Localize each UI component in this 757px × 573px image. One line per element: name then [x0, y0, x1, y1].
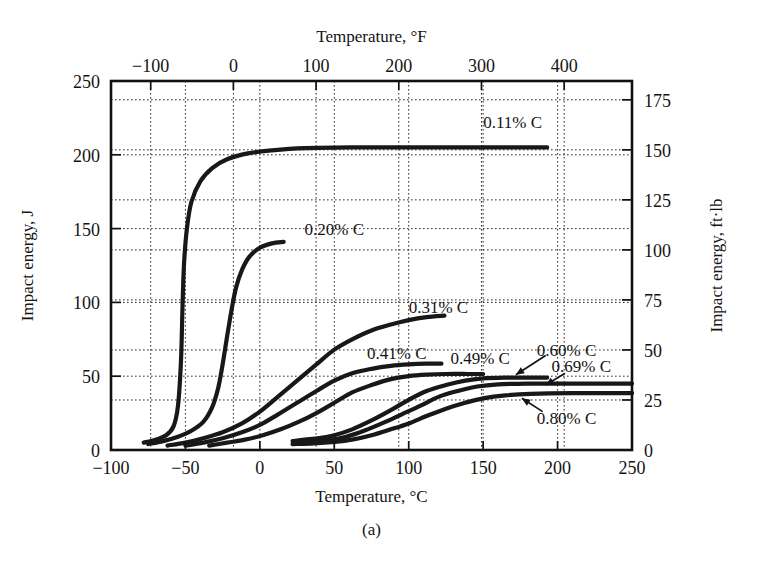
tick-label-x-top: 300	[468, 56, 495, 76]
tick-label-x-bottom: −100	[92, 458, 129, 478]
x-axis-title-celsius: Temperature, °C	[315, 487, 427, 506]
impact-energy-chart: −100−50050100150200250−10001002003004000…	[0, 0, 757, 573]
annotation-arrow-head	[522, 398, 531, 406]
tick-label-y-left: 50	[82, 367, 100, 387]
y-axis-title-joules: Impact energy, J	[18, 209, 37, 321]
curve-020c	[148, 242, 283, 444]
tick-label-x-top: 400	[551, 56, 578, 76]
tick-label-y-right: 50	[644, 341, 662, 361]
curve-label-020c: 0.20% C	[305, 220, 365, 239]
tick-label-y-right: 25	[644, 391, 662, 411]
tick-label-x-bottom: −50	[171, 458, 199, 478]
tick-label-x-top: −100	[132, 56, 169, 76]
curve-label-069c: 0.69% C	[552, 357, 612, 376]
tick-label-y-left: 250	[73, 72, 100, 92]
curves	[144, 147, 632, 445]
annotation-arrow-head	[516, 367, 525, 375]
curve-label-041c: 0.41% C	[367, 344, 427, 363]
tick-label-y-left: 150	[73, 220, 100, 240]
curve-label-031c: 0.31% C	[409, 298, 469, 317]
tick-label-x-bottom: 150	[470, 458, 497, 478]
tick-label-x-top: 200	[385, 56, 412, 76]
tick-label-y-right: 125	[644, 191, 671, 211]
tick-label-y-right: 150	[644, 141, 671, 161]
tick-label-x-bottom: 50	[325, 458, 343, 478]
tick-label-y-right: 100	[644, 241, 671, 261]
curve-label-011c: 0.11% C	[483, 113, 542, 132]
figure-sublabel: (a)	[362, 520, 381, 539]
tick-label-y-right: 175	[644, 91, 671, 111]
tick-label-x-bottom: 200	[544, 458, 571, 478]
curve-label-080c: 0.80% C	[537, 409, 597, 428]
curve-label-049c: 0.49% C	[450, 349, 510, 368]
curve-060c	[293, 378, 548, 442]
tick-label-x-bottom: 0	[255, 458, 264, 478]
tick-label-y-right: 0	[644, 441, 653, 461]
tick-label-x-bottom: 100	[395, 458, 422, 478]
tick-label-x-bottom: 250	[619, 458, 646, 478]
tick-label-y-right: 75	[644, 291, 662, 311]
tick-label-x-top: 100	[303, 56, 330, 76]
tick-label-y-left: 100	[73, 293, 100, 313]
x-axis-title-fahrenheit: Temperature, °F	[316, 27, 426, 46]
tick-label-y-left: 0	[91, 441, 100, 461]
tick-label-x-top: 0	[229, 56, 238, 76]
tick-label-y-left: 200	[73, 146, 100, 166]
figure-panel: −100−50050100150200250−10001002003004000…	[0, 0, 757, 573]
y-axis-title-footpounds: Impact energy, ft·lb	[707, 198, 726, 332]
